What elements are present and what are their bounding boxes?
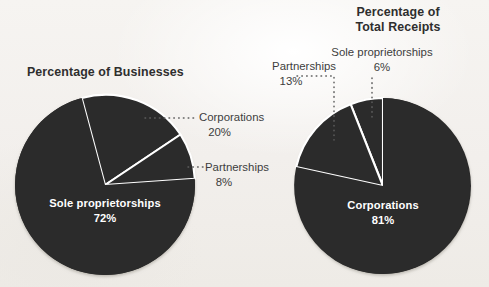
pie-percentage-of-businesses bbox=[15, 95, 203, 275]
callout-left-corporations-name: Corporations bbox=[199, 110, 264, 125]
slice-label-left-sole-proprietorships-percent: 72% bbox=[25, 211, 185, 226]
pie-percentage-of-total-receipts bbox=[294, 76, 471, 274]
slice-label-right-corporations-percent: 81% bbox=[318, 213, 448, 228]
chart-title-percentage-of-total-receipts: Percentage of Total Receipts bbox=[322, 5, 474, 34]
callout-left-partnerships: Partnerships 8% bbox=[205, 160, 269, 189]
callout-left-corporations-percent: 20% bbox=[199, 125, 264, 140]
slice-label-left-sole-proprietorships-name: Sole proprietorships bbox=[49, 197, 160, 209]
pie-charts-svg bbox=[0, 0, 489, 287]
callout-left-partnerships-name: Partnerships bbox=[205, 160, 269, 175]
slice-label-right-corporations: Corporations 81% bbox=[318, 198, 448, 227]
pie-chart-figure: Percentage of Businesses Percentage of T… bbox=[0, 0, 489, 287]
callout-right-partnerships-percent: 13% bbox=[258, 74, 336, 89]
slice-label-left-sole-proprietorships: Sole proprietorships 72% bbox=[25, 196, 185, 225]
callout-left-partnerships-percent: 8% bbox=[205, 175, 269, 190]
chart-title-percentage-of-businesses: Percentage of Businesses bbox=[27, 65, 184, 80]
callout-right-sole-proprietorships-name: Sole proprietorships bbox=[322, 45, 442, 60]
slice-label-right-corporations-name: Corporations bbox=[347, 199, 418, 211]
callout-left-corporations: Corporations 20% bbox=[199, 110, 264, 139]
callout-right-sole-proprietorships: Sole proprietorships 6% bbox=[322, 45, 442, 74]
callout-right-sole-proprietorships-percent: 6% bbox=[322, 60, 442, 75]
